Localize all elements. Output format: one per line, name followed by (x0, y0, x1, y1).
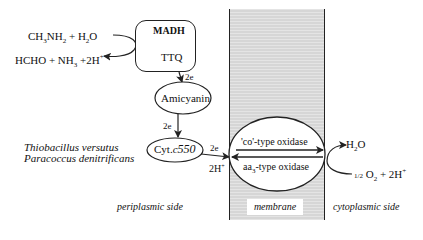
co-oxidase-label: 'co'-type oxidase (241, 136, 308, 148)
madh-to-amicyanin-arrow (179, 72, 182, 82)
amicyanin-text: Amicyanin (161, 92, 210, 104)
madh-cofactor: TTQ (161, 51, 182, 63)
madh-title: MADH (153, 25, 185, 37)
electron-label-3: 2e (210, 143, 219, 153)
cytoplasm-label: cytoplasmic side (333, 201, 399, 212)
proton-label: 2H+ (209, 160, 225, 175)
periplasm-label: periplasmic side (117, 201, 183, 212)
substrate-conversion-arrow (104, 35, 136, 56)
electron-label-1: 2e (185, 72, 194, 82)
organism-2: Paracoccus denitrificans (24, 152, 134, 164)
cytc-to-oxidase-arrow (201, 154, 229, 157)
aa3-oxidase-label: aa3-type oxidase (243, 161, 309, 177)
cytc-prefix: Cyt. (154, 143, 173, 155)
electron-label-2: 2e (163, 121, 172, 131)
oxygen-text: 1/2 O2 + 2H+ (354, 165, 406, 185)
cytc-number: 550 (178, 142, 196, 156)
substrate-text: CH3NH2 + H2O (28, 30, 97, 47)
water-text: H2O (346, 138, 365, 155)
product-text: HCHO + NH3 +2H+ (15, 51, 104, 71)
oxidase-node (229, 117, 325, 191)
cytc-text: Cyt.c550 (154, 143, 196, 155)
